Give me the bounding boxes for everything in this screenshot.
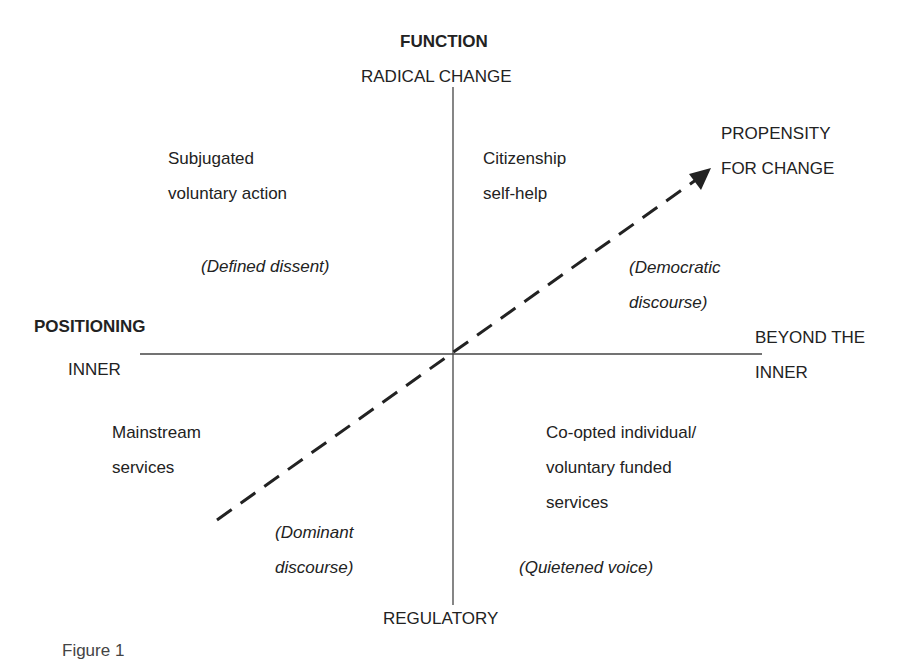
- propensity-for-change-label: PROPENSITY FOR CHANGE: [721, 116, 834, 186]
- quadrant-top-right-discourse: (Democratic discourse): [629, 250, 721, 320]
- beyond-the-inner-label: BEYOND THE INNER: [755, 320, 865, 390]
- quadrant-top-left-label: Subjugated voluntary action: [168, 141, 287, 211]
- inner-label: INNER: [68, 357, 121, 383]
- function-axis-title: FUNCTION: [400, 29, 488, 55]
- positioning-axis-title: POSITIONING: [34, 314, 145, 340]
- radical-change-label: RADICAL CHANGE: [361, 64, 512, 90]
- quadrant-bottom-right-label: Co-opted individual/ voluntary funded se…: [546, 415, 696, 520]
- quadrant-top-right-label: Citizenship self-help: [483, 141, 566, 211]
- quadrant-bottom-right-discourse: (Quietened voice): [519, 555, 653, 581]
- quadrant-top-left-discourse: (Defined dissent): [201, 254, 330, 280]
- regulatory-label: REGULATORY: [383, 606, 498, 632]
- quadrant-bottom-left-discourse: (Dominant discourse): [275, 515, 353, 585]
- figure-caption: Figure 1: [62, 641, 124, 661]
- quadrant-bottom-left-label: Mainstream services: [112, 415, 201, 485]
- arrowhead-icon: [689, 168, 711, 190]
